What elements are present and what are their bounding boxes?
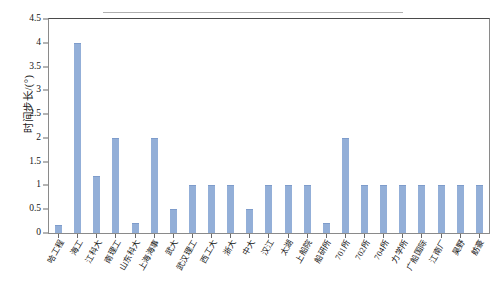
bar: [438, 185, 445, 233]
x-axis-tick-mark: [211, 234, 212, 238]
bar-slot: [374, 19, 393, 233]
bar: [342, 138, 349, 233]
x-axis-tick-mark: [345, 234, 346, 238]
x-tick-slot: [87, 234, 106, 238]
x-tick-slot: [279, 234, 298, 238]
bar: [285, 185, 292, 233]
x-label-slot: 上海海事: [145, 239, 164, 295]
x-axis-tick-label: 昊野: [452, 239, 468, 258]
x-axis-tick-labels: 哈工程海工江科大南理工山东科大上海海事武大武汉理工西工大浙大中大汉江太湖上船院船…: [49, 239, 489, 295]
bar: [227, 185, 234, 233]
x-axis-tick-mark: [326, 234, 327, 238]
x-axis-tick-label: 702所: [354, 239, 372, 262]
x-label-slot: 西工大: [202, 239, 221, 295]
x-axis-tick-mark: [192, 234, 193, 238]
x-axis-tick-label: 海工: [69, 239, 85, 258]
bar: [55, 225, 62, 233]
x-label-slot: 广船国际: [412, 239, 431, 295]
bar: [418, 185, 425, 233]
x-axis-tick-mark: [402, 234, 403, 238]
x-tick-slot: [451, 234, 470, 238]
bar: [323, 223, 330, 233]
x-axis-tick-mark: [479, 234, 480, 238]
bar-slot: [279, 19, 298, 233]
bar-slot: [68, 19, 87, 233]
x-axis-tick-label: 中大: [242, 239, 258, 258]
x-axis-tick-label: 汉江: [261, 239, 277, 258]
bar-slot: [183, 19, 202, 233]
x-axis-tick-label: 西工大: [199, 239, 219, 265]
x-axis-tick-mark: [460, 234, 461, 238]
x-axis-tick-mark: [307, 234, 308, 238]
x-axis-tick-mark: [154, 234, 155, 238]
bar-slot: [355, 19, 374, 233]
x-tick-slot: [106, 234, 125, 238]
x-tick-slot: [412, 234, 431, 238]
x-tick-slot: [259, 234, 278, 238]
x-label-slot: 702所: [355, 239, 374, 295]
bar: [476, 185, 483, 233]
x-tick-slot: [298, 234, 317, 238]
x-axis-tick-mark: [441, 234, 442, 238]
bar: [151, 138, 158, 233]
bar: [74, 43, 81, 233]
x-tick-slot: [393, 234, 412, 238]
y-axis-tick-label: 3.5: [29, 62, 41, 72]
x-axis-tick-mark: [135, 234, 136, 238]
y-axis-tick-label: 3: [36, 86, 41, 96]
y-axis-tick-label: 0.5: [29, 204, 41, 214]
bar-slot: [393, 19, 412, 233]
x-label-slot: 上船院: [298, 239, 317, 295]
x-axis-tick-label: 浙大: [222, 239, 238, 258]
x-label-slot: 武汉理工: [183, 239, 202, 295]
x-axis-tick-label: 上船院: [295, 239, 315, 265]
bar: [93, 176, 100, 233]
bar: [208, 185, 215, 233]
bar-slot: [412, 19, 431, 233]
bar-slot: [432, 19, 451, 233]
x-axis-tick-mark: [115, 234, 116, 238]
x-tick-slot: [470, 234, 489, 238]
bar: [399, 185, 406, 233]
bar-slot: [202, 19, 221, 233]
bar-slot: [259, 19, 278, 233]
bar: [304, 185, 311, 233]
bar: [132, 223, 139, 233]
x-axis-tick-mark: [58, 234, 59, 238]
bar-slot: [336, 19, 355, 233]
y-axis-tick-label: 4: [36, 38, 41, 48]
x-tick-slot: [126, 234, 145, 238]
x-label-slot: 江科大: [87, 239, 106, 295]
y-axis-tick-label: 1.5: [29, 157, 41, 167]
y-axis-tick-label: 2: [36, 133, 41, 143]
x-tick-slot: [183, 234, 202, 238]
bar: [189, 185, 196, 233]
y-axis-tick-label: 0: [36, 228, 41, 238]
bar-slot: [470, 19, 489, 233]
x-axis-tick-label: 舫豪: [471, 239, 487, 258]
x-axis-tick-label: 江南厂: [429, 239, 449, 265]
bar-slot: [317, 19, 336, 233]
bar-slot: [49, 19, 68, 233]
x-label-slot: 太湖: [279, 239, 298, 295]
bar-slot: [298, 19, 317, 233]
x-axis-tick-mark: [364, 234, 365, 238]
x-label-slot: 哈工程: [49, 239, 68, 295]
y-axis-tick-label: 1: [36, 181, 41, 191]
x-tick-slot: [145, 234, 164, 238]
plot-area: [49, 19, 489, 233]
x-tick-slot: [355, 234, 374, 238]
x-label-slot: 701所: [336, 239, 355, 295]
bar-chart: 时间步长/(°) 00.511.522.533.544.5 哈工程海工江科大南理…: [0, 0, 496, 295]
x-tick-slot: [374, 234, 393, 238]
bar: [380, 185, 387, 233]
x-label-slot: 舫豪: [470, 239, 489, 295]
y-axis-tick-labels: 00.511.522.533.544.5: [0, 18, 48, 234]
x-axis-tick-mark: [383, 234, 384, 238]
bar: [361, 185, 368, 233]
x-axis-tick-label: 704所: [373, 239, 391, 262]
x-label-slot: 704所: [374, 239, 393, 295]
y-axis-tick-label: 2.5: [29, 109, 41, 119]
bar-slot: [240, 19, 259, 233]
x-label-slot: 船研所: [317, 239, 336, 295]
